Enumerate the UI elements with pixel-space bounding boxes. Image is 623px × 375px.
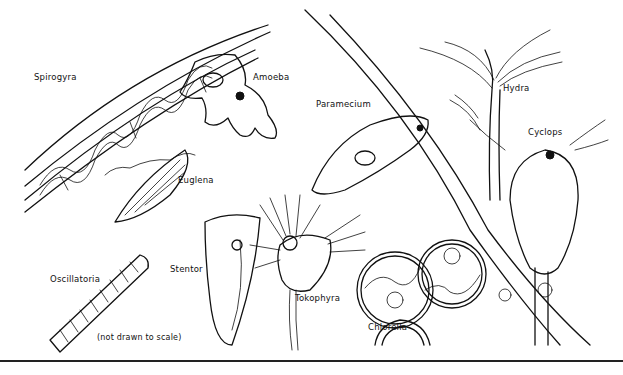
label-paramecium: Paramecium [316,99,371,109]
label-chlorella: Chlorella [368,322,407,332]
cyclops-drawing [470,120,608,345]
filament-drawing [305,10,590,345]
label-euglena: Euglena [178,175,214,185]
bottom-rule [0,360,623,362]
label-spirogyra: Spirogyra [34,72,77,82]
tokophyra-drawing [250,195,365,350]
label-oscillatoria: Oscillatoria [50,274,100,284]
stentor-drawing [205,215,260,345]
label-amoeba: Amoeba [253,72,289,82]
paramecium-drawing [312,116,428,194]
scale-note: (not drawn to scale) [97,333,182,342]
label-cyclops: Cyclops [528,127,562,137]
euglena-drawing [105,150,195,222]
spirogyra-drawing [25,25,270,212]
hydra-drawing [420,30,562,200]
line-drawing [0,0,623,375]
microorganisms-illustration: Spirogyra Amoeba Paramecium Hydra Cyclop… [0,0,623,375]
amoeba-drawing [180,54,276,138]
label-hydra: Hydra [503,83,530,93]
label-tokophyra: Tokophyra [295,293,340,303]
label-stentor: Stentor [170,264,203,274]
